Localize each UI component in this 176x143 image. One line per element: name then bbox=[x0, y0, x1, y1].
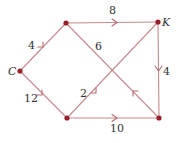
weight-c-a: 4 bbox=[28, 39, 35, 52]
node-label-k: K bbox=[161, 16, 171, 29]
weight-d-a: 6 bbox=[95, 40, 102, 53]
node-b bbox=[64, 115, 69, 120]
node-k bbox=[155, 19, 160, 24]
weight-c-b: 12 bbox=[24, 92, 38, 105]
edge-a-k bbox=[66, 22, 158, 23]
node-label-c: C bbox=[8, 65, 17, 78]
weight-b-d: 10 bbox=[110, 122, 124, 135]
node-c bbox=[17, 68, 22, 73]
weight-k-d: 4 bbox=[163, 65, 170, 78]
node-a bbox=[63, 20, 68, 25]
weight-a-k: 8 bbox=[109, 4, 116, 17]
graph-diagram: C K 4 12 8 2 6 4 10 bbox=[0, 0, 176, 143]
node-d bbox=[156, 115, 161, 120]
arrow-c-a-icon bbox=[38, 42, 43, 47]
weight-b-k: 2 bbox=[80, 87, 87, 100]
